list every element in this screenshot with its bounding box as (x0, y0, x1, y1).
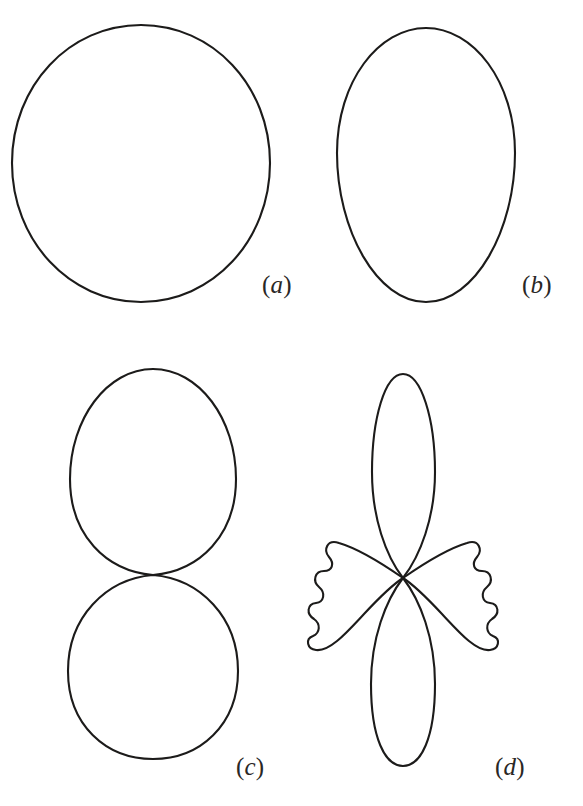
pattern-curve-b (337, 28, 515, 302)
pattern-curve-d-side-lobe-right (403, 542, 498, 650)
pattern-curve-d-main-lobe-lower (371, 578, 435, 766)
radiation-pattern-figure: (a) (b) (c) (d) (0, 0, 583, 806)
panel-label-b-open-paren: ( (522, 271, 531, 298)
pattern-curve-d-main-lobe-upper (372, 374, 435, 578)
panel-label-a: (a) (262, 272, 292, 297)
panel-label-c: (c) (236, 754, 264, 779)
panel-c-figure-eight-dipole-pattern (60, 363, 246, 763)
panel-label-a-close-paren: ) (283, 271, 292, 298)
pattern-curve-c-lower-lobe (68, 575, 238, 759)
panel-label-a-letter: a (271, 271, 284, 298)
panel-label-c-close-paren: ) (256, 753, 265, 780)
panel-label-d-open-paren: ( (495, 753, 504, 780)
panel-label-c-open-paren: ( (236, 753, 245, 780)
panel-label-a-open-paren: ( (262, 271, 271, 298)
pattern-curve-a (12, 25, 270, 302)
panel-label-b-letter: b (531, 271, 544, 298)
panel-label-d-close-paren: ) (516, 753, 525, 780)
panel-label-b-close-paren: ) (543, 271, 552, 298)
panel-label-d: (d) (495, 754, 525, 779)
panel-a-isotropic-pattern (8, 22, 274, 306)
panel-b-broad-oval-pattern (333, 25, 519, 305)
panel-label-d-letter: d (504, 753, 517, 780)
pattern-curve-d-side-lobe-left (308, 542, 403, 650)
panel-label-c-letter: c (245, 753, 256, 780)
pattern-curve-c-upper-lobe (70, 369, 236, 575)
panel-d-directional-pattern-with-side-lobes (330, 366, 530, 772)
panel-label-b: (b) (522, 272, 552, 297)
